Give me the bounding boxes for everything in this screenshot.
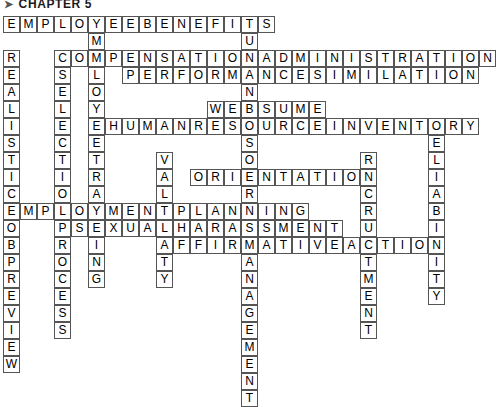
crossword-cell[interactable]: T xyxy=(88,152,105,169)
crossword-cell[interactable]: V xyxy=(156,152,173,169)
crossword-cell[interactable]: R xyxy=(190,118,207,135)
crossword-cell[interactable]: O xyxy=(462,50,479,67)
crossword-cell[interactable]: A xyxy=(224,220,241,237)
crossword-cell[interactable]: B xyxy=(241,101,258,118)
crossword-cell[interactable]: S xyxy=(241,135,258,152)
crossword-cell[interactable]: A xyxy=(292,169,309,186)
crossword-cell[interactable]: O xyxy=(343,169,360,186)
crossword-cell[interactable]: A xyxy=(156,169,173,186)
crossword-cell[interactable]: C xyxy=(360,237,377,254)
crossword-cell[interactable]: C xyxy=(275,67,292,84)
crossword-cell[interactable]: E xyxy=(88,118,105,135)
crossword-cell[interactable]: N xyxy=(428,237,445,254)
crossword-cell[interactable]: I xyxy=(292,237,309,254)
crossword-cell[interactable]: S xyxy=(258,101,275,118)
crossword-cell[interactable]: O xyxy=(71,16,88,33)
crossword-cell[interactable]: O xyxy=(445,67,462,84)
crossword-cell[interactable]: P xyxy=(105,50,122,67)
crossword-cell[interactable]: T xyxy=(377,237,394,254)
crossword-cell[interactable]: C xyxy=(360,186,377,203)
crossword-cell[interactable]: S xyxy=(54,322,71,339)
crossword-cell[interactable]: U xyxy=(122,118,139,135)
crossword-cell[interactable]: A xyxy=(173,50,190,67)
crossword-cell[interactable]: W xyxy=(207,101,224,118)
crossword-cell[interactable]: N xyxy=(139,203,156,220)
crossword-cell[interactable]: R xyxy=(394,50,411,67)
crossword-cell[interactable]: E xyxy=(292,67,309,84)
crossword-cell[interactable]: U xyxy=(122,220,139,237)
crossword-cell[interactable]: E xyxy=(88,135,105,152)
crossword-cell[interactable]: M xyxy=(105,203,122,220)
crossword-cell[interactable]: N xyxy=(258,169,275,186)
crossword-cell[interactable]: R xyxy=(207,67,224,84)
crossword-cell[interactable]: R xyxy=(54,237,71,254)
crossword-cell[interactable]: A xyxy=(190,220,207,237)
crossword-cell[interactable]: I xyxy=(428,67,445,84)
crossword-cell[interactable]: E xyxy=(207,118,224,135)
crossword-cell[interactable]: O xyxy=(224,50,241,67)
crossword-cell[interactable]: M xyxy=(241,339,258,356)
crossword-cell[interactable]: N xyxy=(360,169,377,186)
crossword-cell[interactable]: E xyxy=(241,169,258,186)
crossword-cell[interactable]: G xyxy=(88,271,105,288)
crossword-cell[interactable]: I xyxy=(207,237,224,254)
crossword-cell[interactable]: N xyxy=(241,271,258,288)
crossword-cell[interactable]: N xyxy=(139,50,156,67)
crossword-cell[interactable]: N xyxy=(275,203,292,220)
crossword-cell[interactable]: Y xyxy=(88,101,105,118)
crossword-cell[interactable]: Y xyxy=(428,288,445,305)
crossword-cell[interactable]: V xyxy=(309,237,326,254)
crossword-cell[interactable]: M xyxy=(139,118,156,135)
crossword-cell[interactable]: S xyxy=(309,67,326,84)
crossword-cell[interactable]: O xyxy=(190,67,207,84)
crossword-cell[interactable]: N xyxy=(326,50,343,67)
crossword-cell[interactable]: A xyxy=(428,186,445,203)
crossword-cell[interactable]: L xyxy=(54,16,71,33)
crossword-cell[interactable]: I xyxy=(258,203,275,220)
crossword-cell[interactable]: L xyxy=(3,101,20,118)
crossword-cell[interactable]: I xyxy=(428,254,445,271)
crossword-cell[interactable]: T xyxy=(428,271,445,288)
crossword-cell[interactable]: M xyxy=(224,67,241,84)
crossword-cell[interactable]: C xyxy=(54,135,71,152)
crossword-cell[interactable]: T xyxy=(190,50,207,67)
crossword-cell[interactable]: S xyxy=(3,135,20,152)
crossword-cell[interactable]: C xyxy=(3,186,20,203)
crossword-cell[interactable]: O xyxy=(428,118,445,135)
crossword-cell[interactable]: B xyxy=(428,203,445,220)
crossword-cell[interactable]: T xyxy=(156,203,173,220)
crossword-cell[interactable]: Y xyxy=(156,271,173,288)
crossword-cell[interactable]: E xyxy=(3,288,20,305)
crossword-cell[interactable]: S xyxy=(54,305,71,322)
crossword-cell[interactable]: T xyxy=(275,237,292,254)
crossword-cell[interactable]: T xyxy=(3,152,20,169)
crossword-cell[interactable]: L xyxy=(88,67,105,84)
crossword-cell[interactable]: P xyxy=(122,67,139,84)
crossword-cell[interactable]: R xyxy=(3,50,20,67)
crossword-cell[interactable]: E xyxy=(241,356,258,373)
crossword-cell[interactable]: E xyxy=(224,101,241,118)
crossword-cell[interactable]: R xyxy=(207,220,224,237)
crossword-cell[interactable]: O xyxy=(88,84,105,101)
crossword-cell[interactable]: A xyxy=(241,67,258,84)
crossword-cell[interactable]: C xyxy=(54,271,71,288)
crossword-cell[interactable]: A xyxy=(88,186,105,203)
crossword-cell[interactable]: M xyxy=(241,237,258,254)
crossword-cell[interactable]: L xyxy=(428,152,445,169)
crossword-cell[interactable]: M xyxy=(343,67,360,84)
crossword-cell[interactable]: A xyxy=(258,50,275,67)
crossword-cell[interactable]: I xyxy=(224,169,241,186)
crossword-cell[interactable]: T xyxy=(309,169,326,186)
crossword-cell[interactable]: T xyxy=(428,50,445,67)
crossword-cell[interactable]: A xyxy=(156,237,173,254)
crossword-cell[interactable]: S xyxy=(224,118,241,135)
crossword-cell[interactable]: R xyxy=(3,271,20,288)
crossword-cell[interactable]: T xyxy=(156,254,173,271)
crossword-cell[interactable]: V xyxy=(3,305,20,322)
crossword-cell[interactable]: E xyxy=(309,101,326,118)
crossword-cell[interactable]: C xyxy=(54,50,71,67)
crossword-cell[interactable]: I xyxy=(445,50,462,67)
crossword-cell[interactable]: A xyxy=(241,254,258,271)
crossword-cell[interactable]: I xyxy=(428,169,445,186)
crossword-cell[interactable]: E xyxy=(122,16,139,33)
